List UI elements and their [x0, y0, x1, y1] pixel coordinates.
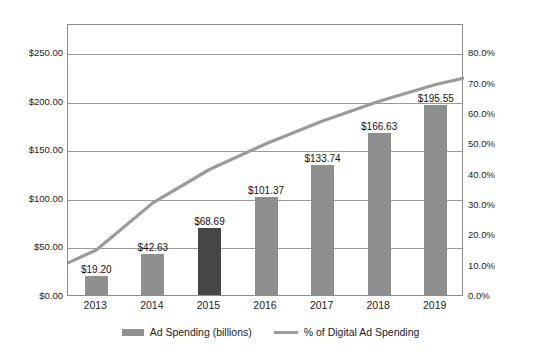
right-axis-tick-label: 0.0% — [468, 291, 490, 301]
left-axis-tick-label: $50.00 — [5, 242, 63, 252]
legend-item-digital-share: % of Digital Ad Spending — [274, 326, 420, 338]
right-axis-tick-label: 10.0% — [468, 261, 495, 271]
right-axis-tick-label: 80.0% — [468, 48, 495, 58]
left-axis-tick-label: $150.00 — [5, 145, 63, 155]
chart-container: $0.00$50.00$100.00$150.00$200.00$250.00 … — [0, 0, 541, 356]
category-label-2016: 2016 — [237, 299, 293, 312]
left-axis-tick-label: $0.00 — [5, 291, 63, 301]
category-label-2015: 2015 — [180, 299, 236, 312]
right-percent-axis: 0.0%10.0%20.0%30.0%40.0%50.0%60.0%70.0%8… — [468, 24, 538, 296]
legend-label-digital-share: % of Digital Ad Spending — [304, 326, 420, 338]
right-axis-tick-label: 60.0% — [468, 109, 495, 119]
left-axis-tick-label: $100.00 — [5, 194, 63, 204]
legend-item-ad-spending: Ad Spending (billions) — [122, 326, 252, 338]
right-axis-tick-label: 70.0% — [468, 79, 495, 89]
category-label-2013: 2013 — [67, 299, 123, 312]
right-axis-tick-label: 30.0% — [468, 200, 495, 210]
chart-legend: Ad Spending (billions) % of Digital Ad S… — [0, 326, 541, 338]
bar-swatch-icon — [122, 329, 144, 336]
right-axis-tick-label: 20.0% — [468, 230, 495, 240]
category-label-2018: 2018 — [350, 299, 406, 312]
category-label-2019: 2019 — [407, 299, 463, 312]
left-value-axis: $0.00$50.00$100.00$150.00$200.00$250.00 — [0, 24, 63, 296]
line-swatch-icon — [274, 331, 298, 334]
left-axis-tick-label: $250.00 — [5, 48, 63, 58]
plot-area: $19.20$42.63$68.69$101.37$133.74$166.63$… — [67, 24, 463, 296]
right-axis-tick-label: 50.0% — [468, 139, 495, 149]
category-axis: 2013201420152016201720182019 — [67, 299, 463, 315]
legend-label-ad-spending: Ad Spending (billions) — [150, 326, 252, 338]
right-axis-tick-label: 40.0% — [468, 170, 495, 180]
digital-ad-spending-trend-line — [68, 78, 464, 263]
category-label-2014: 2014 — [124, 299, 180, 312]
left-axis-tick-label: $200.00 — [5, 97, 63, 107]
line-series-layer — [68, 25, 464, 297]
category-label-2017: 2017 — [294, 299, 350, 312]
